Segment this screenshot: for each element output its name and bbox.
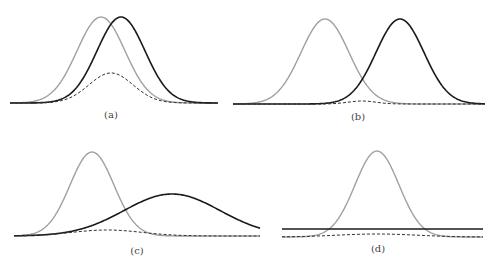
panel-d xyxy=(282,151,483,237)
caption-b: (b) xyxy=(351,111,365,122)
figure-four-panels: (a) (b) (c) (d) xyxy=(0,0,493,264)
gray-curve xyxy=(14,152,260,236)
caption-a: (a) xyxy=(104,109,118,120)
dashed-curve xyxy=(14,230,260,236)
caption-d: (d) xyxy=(371,243,385,254)
panel-b xyxy=(233,19,485,104)
black-curve xyxy=(233,19,485,104)
panel-c xyxy=(14,152,260,236)
black-curve xyxy=(14,194,260,236)
caption-c: (c) xyxy=(130,245,144,256)
gray-curve xyxy=(10,17,218,103)
panel-a xyxy=(10,17,218,103)
gray-curve xyxy=(282,151,483,237)
